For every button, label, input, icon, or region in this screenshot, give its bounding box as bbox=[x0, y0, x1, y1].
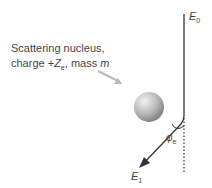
z-symbol: Z bbox=[54, 57, 61, 69]
nucleus-label-line1: Scattering nucleus, bbox=[11, 42, 105, 55]
nucleus-label-line2: charge +Ze, mass m bbox=[11, 57, 109, 74]
scattering-diagram bbox=[0, 0, 212, 188]
phi-label: φe bbox=[166, 131, 176, 148]
E1-label: E1 bbox=[131, 170, 142, 187]
m-symbol: m bbox=[100, 57, 109, 69]
phi-subscript: e bbox=[173, 138, 177, 145]
E0-subscript: 0 bbox=[196, 17, 200, 24]
mass-text: , mass bbox=[65, 57, 100, 69]
nucleus-sphere bbox=[134, 92, 164, 122]
charge-text: charge + bbox=[11, 57, 54, 69]
E1-subscript: 1 bbox=[138, 177, 142, 184]
E0-label: E0 bbox=[189, 10, 200, 27]
